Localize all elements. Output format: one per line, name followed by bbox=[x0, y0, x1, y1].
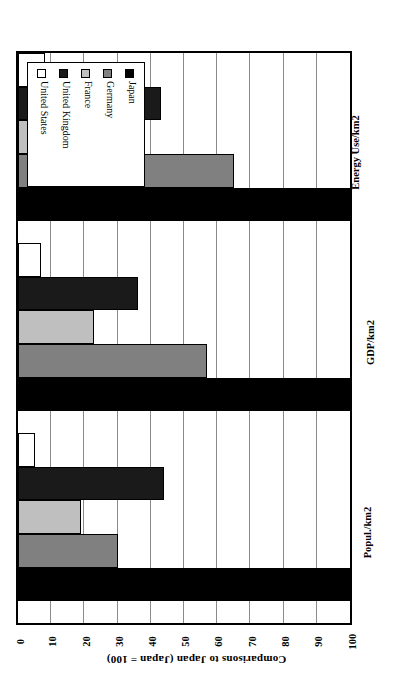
legend-label-germany: Germany bbox=[105, 81, 116, 118]
value-axis-title: Comparisons to Japan (Japan = 100) bbox=[0, 654, 393, 666]
value-tick-70: 70 bbox=[235, 636, 269, 647]
legend-label-wrap: United States bbox=[28, 81, 50, 181]
legend-item-france[interactable]: France bbox=[72, 67, 94, 180]
legend-label-france: France bbox=[83, 81, 94, 108]
bar-germany-popul-km2[interactable] bbox=[18, 534, 118, 568]
bar-united-states-popul-km2[interactable] bbox=[18, 433, 35, 467]
chart-figure: Comparisons to Japan (Japan = 100) 01020… bbox=[0, 0, 393, 674]
bar-united-states-gdp-km2[interactable] bbox=[18, 243, 41, 277]
value-tick-40: 40 bbox=[136, 636, 170, 647]
value-tick-80: 80 bbox=[269, 636, 303, 647]
bar-japan-energy-use-km2[interactable] bbox=[18, 188, 350, 222]
value-tick-90: 90 bbox=[302, 636, 336, 647]
legend-label-wrap: Germany bbox=[94, 81, 116, 181]
legend-swatch-germany bbox=[103, 69, 112, 78]
legend-item-germany[interactable]: Germany bbox=[94, 67, 116, 180]
legend-swatch-japan bbox=[125, 69, 134, 78]
bar-united-kingdom-popul-km2[interactable] bbox=[18, 467, 164, 501]
legend-label-united-states: United States bbox=[39, 81, 50, 135]
legend-item-japan[interactable]: Japan bbox=[116, 67, 138, 180]
legend-label-wrap: Japan bbox=[116, 81, 138, 181]
bar-france-popul-km2[interactable] bbox=[18, 500, 81, 534]
value-tick-60: 60 bbox=[202, 636, 236, 647]
bar-france-gdp-km2[interactable] bbox=[18, 310, 94, 344]
category-label-energy-use-km2: Energy Use/km2 bbox=[355, 147, 393, 158]
category-label-popul-km2: Popul./km2 bbox=[355, 527, 393, 538]
legend-label-wrap: United Kingdom bbox=[50, 81, 72, 181]
legend-label-united-kingdom: United Kingdom bbox=[61, 81, 72, 149]
chart-legend[interactable]: JapanGermanyFranceUnited KingdomUnited S… bbox=[27, 62, 145, 187]
legend-swatch-united-states bbox=[37, 69, 46, 78]
value-tick-30: 30 bbox=[103, 636, 137, 647]
bar-japan-gdp-km2[interactable] bbox=[18, 378, 350, 412]
legend-label-japan: Japan bbox=[127, 81, 138, 104]
legend-swatch-united-kingdom bbox=[59, 69, 68, 78]
value-tick-10: 10 bbox=[36, 636, 70, 647]
bar-group-gdp-km2 bbox=[18, 243, 350, 433]
value-tick-100: 100 bbox=[335, 636, 369, 647]
value-tick-50: 50 bbox=[169, 636, 203, 647]
value-tick-0: 0 bbox=[3, 636, 37, 647]
category-label-gdp-km2: GDP/km2 bbox=[355, 337, 393, 348]
legend-swatch-france bbox=[81, 69, 90, 78]
value-tick-20: 20 bbox=[69, 636, 103, 647]
bar-group-popul-km2 bbox=[18, 433, 350, 623]
legend-item-united-states[interactable]: United States bbox=[28, 67, 50, 180]
bar-japan-popul-km2[interactable] bbox=[18, 568, 350, 602]
value-axis-ticks: 0102030405060708090100 bbox=[0, 625, 393, 647]
bar-germany-gdp-km2[interactable] bbox=[18, 344, 207, 378]
legend-item-united-kingdom[interactable]: United Kingdom bbox=[50, 67, 72, 180]
legend-label-wrap: France bbox=[72, 81, 94, 181]
bar-united-kingdom-gdp-km2[interactable] bbox=[18, 277, 138, 311]
